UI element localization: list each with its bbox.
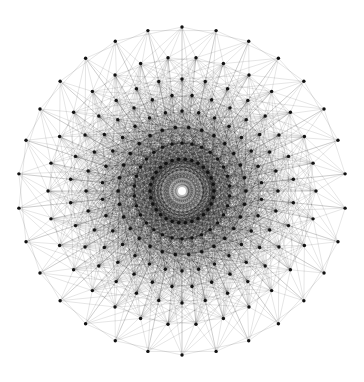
vertex: [232, 152, 235, 155]
vertex: [161, 250, 164, 253]
vertex: [114, 280, 117, 283]
vertex: [292, 201, 295, 204]
vertex: [135, 174, 138, 177]
vertex: [104, 165, 107, 168]
vertex: [129, 152, 132, 155]
vertex: [270, 90, 273, 93]
vertex: [161, 145, 164, 148]
vertex: [228, 272, 231, 275]
vertex: [164, 268, 167, 271]
vertex: [212, 196, 215, 199]
vertex: [206, 170, 209, 173]
vertex: [84, 189, 87, 192]
vertex: [322, 107, 325, 110]
vertex: [232, 227, 235, 230]
vertex: [118, 176, 121, 179]
vertex: [103, 133, 106, 136]
vertex: [116, 118, 119, 121]
vertex: [336, 240, 339, 243]
vertex: [258, 246, 261, 249]
vertex: [227, 125, 230, 128]
vertex: [114, 339, 117, 342]
vertex: [196, 162, 199, 165]
vertex: [148, 134, 151, 137]
vertex: [343, 172, 346, 175]
vertex: [17, 172, 20, 175]
vertex: [133, 254, 136, 257]
vertex: [260, 181, 263, 184]
vertex: [170, 142, 173, 145]
vertex: [101, 181, 104, 184]
vertex: [264, 114, 267, 117]
vertex: [222, 62, 225, 65]
vertex: [149, 196, 152, 199]
vertex: [268, 228, 271, 231]
vertex: [200, 128, 203, 131]
vertex: [137, 142, 140, 145]
vertex: [132, 272, 135, 275]
vertex: [74, 155, 77, 158]
vertex: [83, 133, 86, 136]
vertex: [223, 237, 226, 240]
vertex: [243, 176, 246, 179]
vertex: [91, 90, 94, 93]
vertex: [103, 246, 106, 249]
vertex: [24, 240, 27, 243]
vertex: [161, 128, 164, 131]
vertex: [72, 268, 75, 271]
vertex: [277, 245, 280, 248]
vertex: [132, 106, 135, 109]
vertex: [247, 339, 250, 342]
vertex: [129, 227, 132, 230]
vertex: [187, 253, 190, 256]
vertex: [276, 189, 279, 192]
vertex: [200, 250, 203, 253]
vertex: [84, 322, 87, 325]
vertex: [84, 57, 87, 60]
vertex: [213, 116, 216, 119]
vertex: [274, 209, 277, 212]
vertex: [72, 111, 75, 114]
vertex: [274, 169, 277, 172]
vertex: [197, 111, 200, 114]
vertex: [194, 323, 197, 326]
vertex: [146, 29, 149, 32]
vertex: [180, 25, 183, 28]
vertex: [49, 217, 52, 220]
vertex: [137, 237, 140, 240]
vertex: [302, 80, 305, 83]
vertex: [314, 189, 317, 192]
vertex: [113, 73, 116, 76]
vertex: [177, 157, 180, 160]
vertex: [180, 77, 183, 80]
vertex: [226, 174, 229, 177]
vertex: [170, 159, 173, 162]
center-point: [178, 187, 186, 195]
vertex: [287, 224, 290, 227]
vertex: [190, 159, 193, 162]
vertex: [287, 155, 290, 158]
vertex: [277, 322, 280, 325]
vertex: [245, 261, 248, 264]
vertex: [311, 161, 314, 164]
vertex: [170, 94, 173, 97]
vertex: [58, 244, 61, 247]
vertex: [247, 305, 250, 308]
vertex: [212, 134, 215, 137]
vertex: [302, 299, 305, 302]
vertex: [149, 183, 152, 186]
vertex: [190, 285, 193, 288]
vertex: [174, 253, 177, 256]
vertex: [58, 299, 61, 302]
vertex: [190, 236, 193, 239]
vertex: [216, 157, 219, 160]
vertex: [133, 184, 136, 187]
vertex: [209, 150, 212, 153]
vertex: [166, 56, 169, 59]
vertex: [111, 149, 114, 152]
vertex: [152, 150, 155, 153]
vertex: [58, 80, 61, 83]
vertex: [154, 170, 157, 173]
vertex: [277, 57, 280, 60]
vertex: [343, 206, 346, 209]
